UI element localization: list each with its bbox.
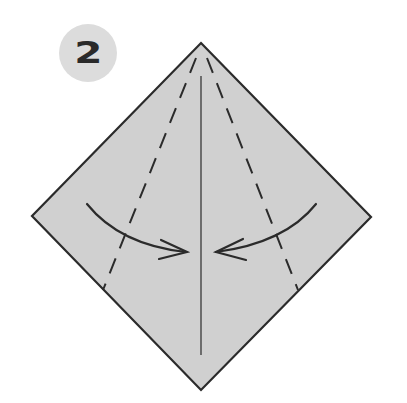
origami-diagram [0, 0, 407, 403]
